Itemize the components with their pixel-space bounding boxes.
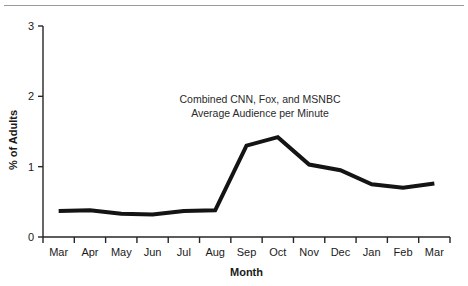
- y-axis-label: % of Adults: [7, 110, 19, 170]
- x-axis-tick-label: Mar: [49, 246, 68, 258]
- x-axis-tick-label: Sep: [237, 246, 257, 258]
- y-axis-tick-label: 3: [28, 20, 34, 32]
- x-axis-tick-label: Dec: [331, 246, 351, 258]
- x-axis-tick-label: Nov: [299, 246, 319, 258]
- y-axis-label-wrap: % of Adults: [2, 90, 24, 190]
- x-axis-tick-label: Jul: [177, 246, 191, 258]
- x-axis-tick-label: Mar: [425, 246, 444, 258]
- x-axis-tick-label: Oct: [269, 246, 286, 258]
- x-axis-tick-label: Apr: [81, 246, 98, 258]
- y-axis-tick-label: 1: [28, 161, 34, 173]
- y-axis-tick-label: 2: [28, 90, 34, 102]
- chart-plot-area: 0123MarAprMayJunJulAugSepOctNovDecJanFeb…: [0, 0, 468, 286]
- x-axis-tick-label: Aug: [205, 246, 225, 258]
- data-series-line: [59, 137, 435, 214]
- annotation-line-1: Combined CNN, Fox, and MSNBC: [120, 92, 400, 106]
- x-axis-tick-label: Jan: [363, 246, 381, 258]
- chart-figure: 0123MarAprMayJunJulAugSepOctNovDecJanFeb…: [0, 0, 468, 286]
- x-axis-label: Month: [43, 266, 450, 278]
- x-axis-tick-label: Feb: [394, 246, 413, 258]
- x-axis-tick-label: May: [111, 246, 132, 258]
- chart-annotation: Combined CNN, Fox, and MSNBC Average Aud…: [120, 92, 400, 120]
- annotation-line-2: Average Audience per Minute: [120, 106, 400, 120]
- y-axis-tick-label: 0: [28, 231, 34, 243]
- x-axis-tick-label: Jun: [144, 246, 162, 258]
